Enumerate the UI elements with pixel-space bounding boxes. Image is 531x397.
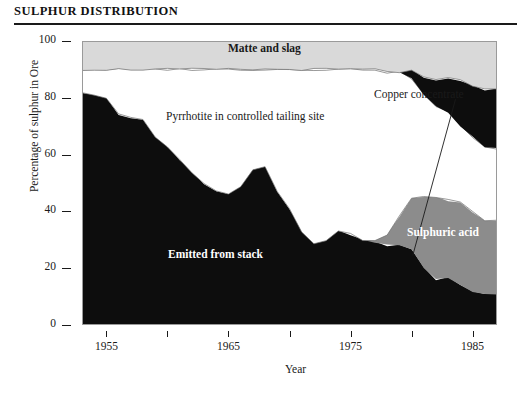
area-chart-svg (82, 41, 497, 325)
x-tick-mark-1985 (473, 331, 474, 337)
y-tick-mark-20 (62, 268, 71, 269)
y-tick-mark-100 (62, 41, 71, 42)
page-title: SULPHUR DISTRIBUTION (14, 4, 517, 19)
y-tick-label-80: 80 (14, 90, 56, 102)
y-tick-label-60: 60 (14, 147, 56, 159)
x-tick-label-1965: 1965 (198, 340, 258, 352)
x-tick-mark-1955 (106, 331, 107, 337)
y-tick-label-0: 0 (14, 317, 56, 329)
x-tick-mark-1980 (412, 331, 413, 337)
figure: SULPHUR DISTRIBUTION Percentage of sulph… (0, 0, 531, 397)
title-divider (14, 23, 517, 25)
y-tick-label-40: 40 (14, 203, 56, 215)
y-tick-mark-0 (62, 325, 71, 326)
y-tick-label-20: 20 (14, 260, 56, 272)
x-axis-label: Year (0, 363, 531, 375)
x-tick-mark-1960 (167, 331, 168, 337)
title-block: SULPHUR DISTRIBUTION (14, 4, 517, 25)
y-tick-mark-40 (62, 211, 71, 212)
x-tick-mark-1970 (290, 331, 291, 337)
x-tick-mark-1975 (351, 331, 352, 337)
y-tick-mark-80 (62, 98, 71, 99)
y-tick-mark-60 (62, 155, 71, 156)
x-tick-label-1955: 1955 (76, 340, 136, 352)
x-axis-label-text: Year (285, 363, 306, 375)
x-tick-label-1975: 1975 (321, 340, 381, 352)
y-tick-label-100: 100 (14, 33, 56, 45)
x-tick-mark-1965 (228, 331, 229, 337)
plot-area (82, 41, 497, 325)
x-tick-label-1985: 1985 (443, 340, 503, 352)
